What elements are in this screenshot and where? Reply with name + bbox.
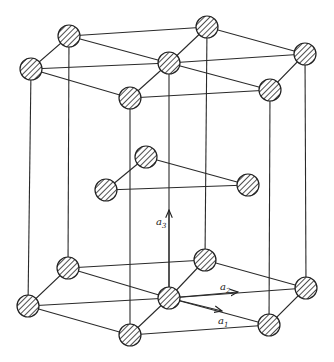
atom [57,257,79,279]
atom [194,249,216,271]
atom [135,146,157,168]
label-a3: a3 [156,216,167,230]
atom [258,314,280,336]
label-a1: a1 [218,315,228,329]
atom [20,58,42,80]
atom [158,287,180,309]
middle-layer-edges [106,157,248,190]
atom [119,324,141,346]
atom [259,79,281,101]
atom [119,87,141,109]
atom [58,25,80,47]
atoms [17,16,317,346]
atom [17,295,39,317]
atom [158,52,180,74]
atom [237,174,259,196]
hcp-diagram: a3 a2 a1 [0,0,334,362]
atom [196,16,218,38]
atom [295,277,317,299]
atom [95,179,117,201]
atom [294,43,316,65]
